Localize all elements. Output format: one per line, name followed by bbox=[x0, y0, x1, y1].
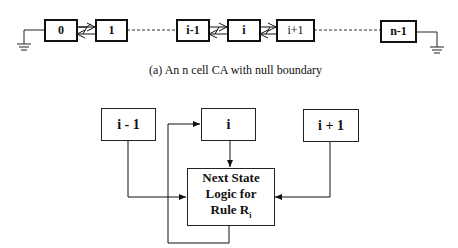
cell-1: 1 bbox=[95, 19, 128, 42]
link-0-1 bbox=[77, 24, 95, 34]
cell-n-minus-1: n-1 bbox=[380, 20, 417, 43]
ground-right-icon bbox=[416, 32, 444, 53]
cell-label: 0 bbox=[58, 23, 64, 38]
rule-label: Rule R bbox=[211, 202, 250, 217]
cell-label: i - 1 bbox=[117, 117, 140, 133]
right-neighbor-cell: i + 1 bbox=[303, 109, 359, 142]
logic-line-3: Rule Ri bbox=[211, 202, 252, 224]
link-i-i+1 bbox=[260, 27, 276, 34]
logic-line-1: Next State bbox=[202, 170, 259, 186]
rule-subscript: i bbox=[249, 211, 251, 220]
cell-label: i bbox=[227, 117, 231, 133]
cell-0: 0 bbox=[44, 19, 78, 42]
center-cell: i bbox=[201, 108, 256, 141]
cell-label: 1 bbox=[109, 23, 115, 38]
cell-i: i bbox=[227, 19, 261, 42]
cell-i-plus-1: i+1 bbox=[276, 19, 315, 42]
arrow-left-neighbor-to-logic bbox=[128, 140, 186, 197]
cell-label: i-1 bbox=[186, 23, 199, 38]
cell-label: i + 1 bbox=[318, 118, 344, 134]
left-neighbor-cell: i - 1 bbox=[101, 108, 156, 141]
link-i-1-i bbox=[209, 27, 227, 34]
logic-line-2: Logic for bbox=[206, 186, 257, 202]
ground-left-icon bbox=[17, 30, 44, 50]
arrow-right-neighbor-to-logic bbox=[275, 140, 330, 197]
cell-label: i+1 bbox=[287, 23, 303, 38]
cell-i-minus-1: i-1 bbox=[176, 19, 210, 42]
next-state-logic-box: Next State Logic for Rule Ri bbox=[187, 168, 275, 226]
cell-label: i bbox=[242, 23, 245, 38]
figure-caption-a: (a) An n cell CA with null boundary bbox=[149, 63, 322, 78]
cell-label: n-1 bbox=[390, 24, 407, 39]
